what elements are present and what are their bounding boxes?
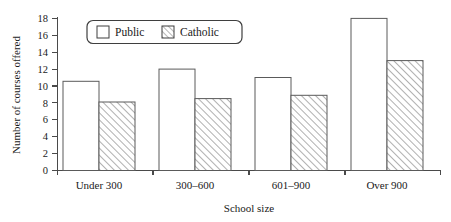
bar-public-601-900 bbox=[255, 78, 291, 171]
y-axis-title-text: Number of courses offered bbox=[10, 36, 22, 155]
x-axis-label-601-900: 601–900 bbox=[272, 179, 311, 191]
chart-legend: Public Catholic bbox=[87, 21, 242, 44]
legend-swatch-public bbox=[97, 26, 109, 38]
bar-group-under-300: Under 300 bbox=[63, 81, 135, 191]
bar-public-under-300 bbox=[63, 81, 99, 170]
x-axis-label-300-600: 300–600 bbox=[176, 179, 215, 191]
x-axis-label-over-900: Over 900 bbox=[366, 179, 408, 191]
y-tick-label-2: 2 bbox=[43, 148, 48, 159]
y-tick-label-14: 14 bbox=[38, 47, 49, 58]
y-tick-label-0: 0 bbox=[43, 165, 48, 176]
bar-catholic-over-900 bbox=[387, 61, 423, 171]
y-tick-label-10: 10 bbox=[38, 81, 49, 92]
chart-svg: Number of courses offered 0 2 4 6 8 10 1… bbox=[0, 0, 451, 222]
x-axis-ticks bbox=[58, 171, 441, 176]
y-axis-title: Number of courses offered bbox=[10, 36, 22, 155]
bar-group-over-900: Over 900 bbox=[351, 18, 423, 191]
legend-label-public: Public bbox=[115, 26, 144, 38]
x-axis-label-under-300: Under 300 bbox=[76, 179, 123, 191]
legend-label-catholic: Catholic bbox=[180, 26, 219, 38]
bar-catholic-601-900 bbox=[291, 95, 327, 170]
bar-group-601-900: 601–900 bbox=[255, 78, 327, 192]
y-tick-label-12: 12 bbox=[38, 64, 49, 75]
bar-catholic-300-600 bbox=[195, 99, 231, 171]
y-tick-label-6: 6 bbox=[43, 114, 48, 125]
y-tick-label-4: 4 bbox=[43, 131, 49, 142]
legend-swatch-catholic bbox=[162, 26, 174, 38]
bar-public-300-600 bbox=[159, 69, 195, 170]
y-tick-label-16: 16 bbox=[38, 30, 49, 41]
bar-chart: Number of courses offered 0 2 4 6 8 10 1… bbox=[0, 0, 451, 222]
bar-group-300-600: 300–600 bbox=[159, 69, 231, 191]
y-axis-ticks: 0 2 4 6 8 10 12 14 16 18 bbox=[38, 13, 58, 176]
bar-catholic-under-300 bbox=[99, 102, 135, 171]
bar-public-over-900 bbox=[351, 18, 387, 170]
y-tick-label-18: 18 bbox=[38, 13, 49, 24]
y-tick-label-8: 8 bbox=[43, 98, 48, 109]
x-axis-title-text: School size bbox=[224, 202, 275, 214]
